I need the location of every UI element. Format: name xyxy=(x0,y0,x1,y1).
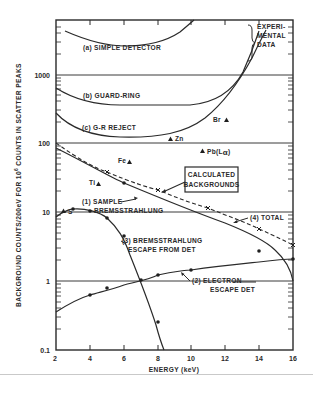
page-divider xyxy=(0,374,313,375)
svg-text:14: 14 xyxy=(255,355,263,362)
svg-text:6: 6 xyxy=(122,355,126,362)
label-3a: (3) BREMSSTRAHLUNG xyxy=(122,237,203,245)
label-experimental-1: EXPERI- xyxy=(257,23,285,30)
svg-text:12: 12 xyxy=(221,355,229,362)
svg-text:Ti: Ti xyxy=(89,179,95,186)
x-axis-label: ENERGY (keV) xyxy=(149,366,199,374)
svg-text:Fe: Fe xyxy=(118,157,126,164)
svg-text:0.1: 0.1 xyxy=(40,347,50,354)
label-c: (c) G-R REJECT xyxy=(82,124,136,132)
svg-text:BACKGROUNDS: BACKGROUNDS xyxy=(183,181,239,188)
experimental-brace xyxy=(248,25,255,61)
arrow-1 xyxy=(121,199,136,202)
svg-text:8: 8 xyxy=(156,355,160,362)
svg-text:16: 16 xyxy=(289,355,297,362)
series-3-brems-escape xyxy=(56,209,164,350)
label-1a: (1) SAMPLE xyxy=(82,198,123,206)
label-experimental-2: MENTAL xyxy=(257,32,286,39)
svg-text:10: 10 xyxy=(187,355,195,362)
label-3b: ESCAPE FROM DET xyxy=(128,246,196,253)
label-b: (b) GUARD-RING xyxy=(83,92,140,100)
y-axis-label: BACKGROUND COUNTS/200eV FOR 106 COUNTS I… xyxy=(13,63,22,307)
label-experimental-3: DATA xyxy=(257,41,276,48)
x-tick-labels: 2 4 6 8 10 12 14 16 xyxy=(53,355,297,362)
svg-text:CALCULATED: CALCULATED xyxy=(188,171,236,178)
label-a: (a) SIMPLE DETECTOR xyxy=(83,44,161,52)
svg-text:Zn: Zn xyxy=(175,135,184,142)
svg-text:1000: 1000 xyxy=(34,72,50,79)
svg-text:S: S xyxy=(68,208,73,215)
svg-text:Br: Br xyxy=(213,116,221,123)
label-4: (4) TOTAL xyxy=(250,214,284,222)
label-2a: (2) ELECTRON xyxy=(192,277,242,285)
svg-text:1: 1 xyxy=(46,278,50,285)
calc-arrow xyxy=(163,182,185,192)
y-tick-labels: 0.1 1 10 100 1000 xyxy=(34,72,50,354)
arrow-2 xyxy=(183,274,190,281)
series-a-simple-detector xyxy=(65,20,194,46)
y-minor-ticks xyxy=(56,27,293,329)
label-2b: ESCAPE DET xyxy=(210,286,255,293)
svg-text:4: 4 xyxy=(88,355,92,362)
svg-text:2: 2 xyxy=(53,355,57,362)
svg-text:100: 100 xyxy=(38,140,50,147)
series-2-electron-escape xyxy=(56,259,293,312)
label-1b: BREMSSTRAHLUNG xyxy=(94,207,163,214)
chart: 2 4 6 8 10 12 14 16 0.1 1 10 100 1000 EN… xyxy=(0,0,313,394)
svg-text:10: 10 xyxy=(42,209,50,216)
series-4-total xyxy=(56,143,293,245)
svg-text:Pb(Lα): Pb(Lα) xyxy=(207,148,231,157)
